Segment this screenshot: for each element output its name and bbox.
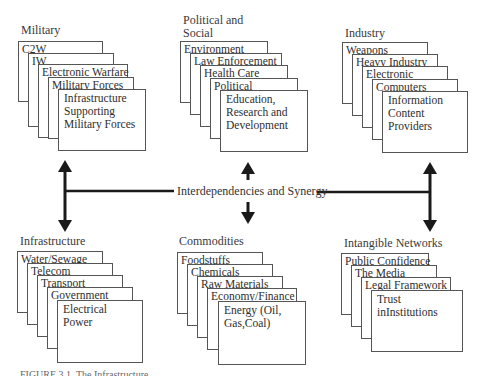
- interdependencies-label: Interdependencies and Synergy: [177, 184, 327, 199]
- card-electrical-power: Electrical Power: [57, 300, 143, 363]
- group-title-intangible-networks: Intangible Networks: [344, 237, 442, 250]
- card-energy: Energy (Oil, Gas,Coal): [218, 301, 306, 365]
- group-title-infrastructure: Infrastructure: [20, 235, 85, 248]
- card-trust-in-institutions: Trust inInstitutions: [371, 290, 463, 352]
- group-title-commodities: Commodities: [179, 235, 244, 248]
